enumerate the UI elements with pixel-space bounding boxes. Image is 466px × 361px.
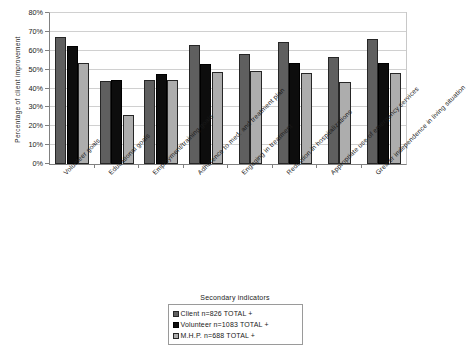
x-axis-tick-mark — [361, 164, 362, 168]
black-swatch — [173, 322, 179, 328]
legend: Secondary indicators Client n=826 TOTAL … — [145, 294, 325, 345]
x-axis-tick-mark — [227, 164, 228, 168]
legend-item: Client n=826 TOTAL + — [173, 308, 298, 319]
legend-item-label: Volunteer n=1083 TOTAL + — [181, 321, 269, 328]
light-gray-swatch — [173, 333, 179, 339]
x-axis-tick-mark — [316, 164, 317, 168]
legend-item: Volunteer n=1083 TOTAL + — [173, 319, 298, 330]
legend-item-label: M.H.P. n=688 TOTAL + — [181, 332, 256, 339]
legend-title: Secondary indicators — [145, 294, 325, 301]
x-axis-category-labels: Volunteer goalsEducational goalsEmployme… — [0, 0, 429, 290]
dark-gray-swatch — [173, 311, 179, 317]
x-axis-category-label: Greater independence in living situation — [374, 83, 466, 176]
legend-box: Client n=826 TOTAL +Volunteer n=1083 TOT… — [168, 304, 303, 345]
x-axis-tick-mark — [272, 164, 273, 168]
x-axis-tick-mark — [183, 164, 184, 168]
x-axis-category-label: Appropriate use of emergency services — [329, 85, 420, 176]
legend-item-label: Client n=826 TOTAL + — [181, 310, 253, 317]
legend-item: M.H.P. n=688 TOTAL + — [173, 330, 298, 341]
x-axis-category-label: Volunteer goals — [62, 137, 101, 176]
x-axis-tick-mark — [138, 164, 139, 168]
x-axis-category-label: Adherence to med. and treatment plan — [196, 86, 286, 176]
x-axis-tick-mark — [94, 164, 95, 168]
x-axis-category-label: Educational goals — [107, 132, 151, 176]
x-axis-category-label: Engaging in treatment — [240, 122, 294, 176]
